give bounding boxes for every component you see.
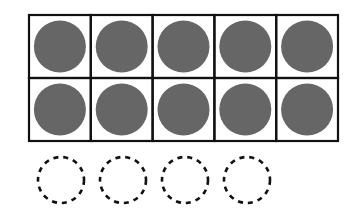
- empty-dashed-circle: [162, 157, 208, 203]
- filled-counter: [281, 84, 333, 136]
- empty-dashed-circle: [100, 157, 146, 203]
- dashed-circles: [38, 157, 270, 203]
- filled-counter: [219, 84, 271, 136]
- ten-frame-diagram: [0, 0, 351, 212]
- filled-counter: [34, 21, 86, 73]
- filled-counter: [96, 21, 148, 73]
- empty-dashed-circle: [224, 157, 270, 203]
- filled-counter: [281, 21, 333, 73]
- filled-counter: [96, 84, 148, 136]
- filled-counter: [158, 84, 210, 136]
- filled-counter: [34, 84, 86, 136]
- filled-counter: [158, 21, 210, 73]
- empty-dashed-circle: [38, 157, 84, 203]
- filled-counter: [219, 21, 271, 73]
